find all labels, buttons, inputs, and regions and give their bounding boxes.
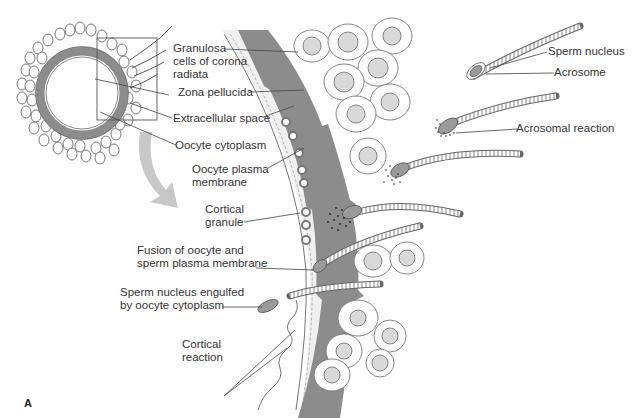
label-line: reaction (182, 351, 223, 364)
label-line: Cortical (182, 338, 223, 351)
label-sperm-nucleus-engulfed: Sperm nucleus engulfed by oocyte cytopla… (120, 286, 244, 312)
label-fusion: Fusion of oocyte and sperm plasma membra… (137, 244, 267, 270)
label-line: granule (205, 216, 244, 229)
label-sperm-nucleus: Sperm nucleus (548, 45, 625, 58)
label-acrosomal-reaction: Acrosomal reaction (516, 122, 614, 135)
label-line: Sperm nucleus engulfed (120, 286, 244, 299)
label-zona-pellucida: Zona pellucida (178, 86, 253, 99)
label-line: Cortical (205, 203, 244, 216)
sperm-penetrating (383, 153, 520, 185)
label-granulosa-cells: Granulosa cells of corona radiata (173, 42, 247, 81)
label-extracellular-space: Extracellular space (173, 112, 270, 125)
label-cortical-reaction: Cortical reaction (182, 338, 223, 364)
label-line: cells of corona (173, 55, 247, 68)
label-line: Oocyte plasma (192, 163, 269, 176)
label-line: by oocyte cytoplasm (120, 299, 244, 312)
label-cortical-granule: Cortical granule (205, 203, 244, 229)
panel-letter: A (24, 397, 32, 409)
label-line: Granulosa (173, 42, 247, 55)
label-oocyte-plasma-membrane: Oocyte plasma membrane (192, 163, 269, 189)
label-line: sperm plasma membrane (137, 257, 267, 270)
label-oocyte-cytoplasm: Oocyte cytoplasm (175, 139, 266, 152)
label-line: membrane (192, 176, 269, 189)
diagram-artwork (0, 0, 643, 418)
label-line: Fusion of oocyte and (137, 244, 267, 257)
label-acrosome: Acrosome (554, 66, 606, 79)
label-line: radiata (173, 68, 247, 81)
fertilization-diagram: Granulosa cells of corona radiata Zona p… (0, 0, 643, 418)
